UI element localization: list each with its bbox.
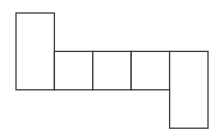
face-middle-1: [54, 51, 92, 89]
face-bottom-right: [170, 51, 208, 128]
face-middle-2: [93, 51, 131, 89]
face-middle-3: [131, 51, 169, 89]
face-top-left: [16, 13, 54, 90]
net-diagram: [0, 0, 221, 139]
